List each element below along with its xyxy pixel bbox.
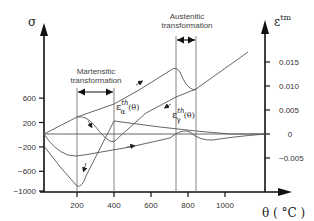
left-tick-label: 600 (23, 94, 37, 103)
eps-gamma-label: εthγ(θ) (172, 107, 195, 124)
left-ticks: 600200−200−600−1000 (14, 94, 44, 196)
x-tick-label: 1000 (216, 201, 234, 210)
arrow-icon (84, 163, 86, 170)
eps-alpha-label: εthα(θ) (116, 99, 139, 116)
right-tick-label: 0.005 (279, 106, 300, 115)
arrow-icon (166, 104, 171, 107)
left-tick-label: −600 (18, 167, 37, 176)
x-tick-label: 200 (70, 201, 84, 210)
x-tick-label: 600 (144, 201, 158, 210)
x-axis: θ ( °C ) 2004006008001000 (40, 188, 305, 220)
right-tick-label: 0 (288, 130, 293, 139)
sigma-label: σ (28, 15, 36, 29)
martensitic-label-1: Martensitic (77, 67, 116, 76)
right-ticks: 0.0150.0100.0050−0.005 (265, 58, 304, 163)
arrow-up-icon (40, 23, 48, 36)
right-tick-label: 0.010 (279, 82, 300, 91)
x-ticks: 2004006008001000 (70, 192, 234, 210)
heating-strain-curve (44, 52, 248, 134)
epsilon-tm-label: εtm (274, 13, 291, 29)
arrow-up-icon (261, 20, 269, 34)
left-tick-label: 200 (23, 119, 37, 128)
arrow-icon (136, 82, 141, 85)
arrow-right-icon (278, 188, 292, 196)
austenitic-label-1: Austenitic (170, 12, 205, 21)
right-tick-label: −0.005 (279, 154, 304, 163)
x-tick-label: 800 (181, 201, 195, 210)
martensitic-label-2: transformation (70, 76, 121, 85)
x-tick-label: 400 (107, 201, 121, 210)
right-axis: εtm 0.0150.0100.0050−0.005 (261, 13, 304, 192)
chart: σ 600200−200−600−1000 εtm 0.0150.0100.00… (0, 0, 314, 221)
theta-axis-label: θ ( °C ) (262, 206, 305, 220)
left-axis: σ 600200−200−600−1000 (14, 15, 48, 196)
austenitic-label-2: transformation (161, 21, 212, 30)
right-tick-label: 0.015 (279, 58, 300, 67)
left-tick-label: −1000 (14, 187, 37, 196)
left-tick-label: −200 (18, 143, 37, 152)
